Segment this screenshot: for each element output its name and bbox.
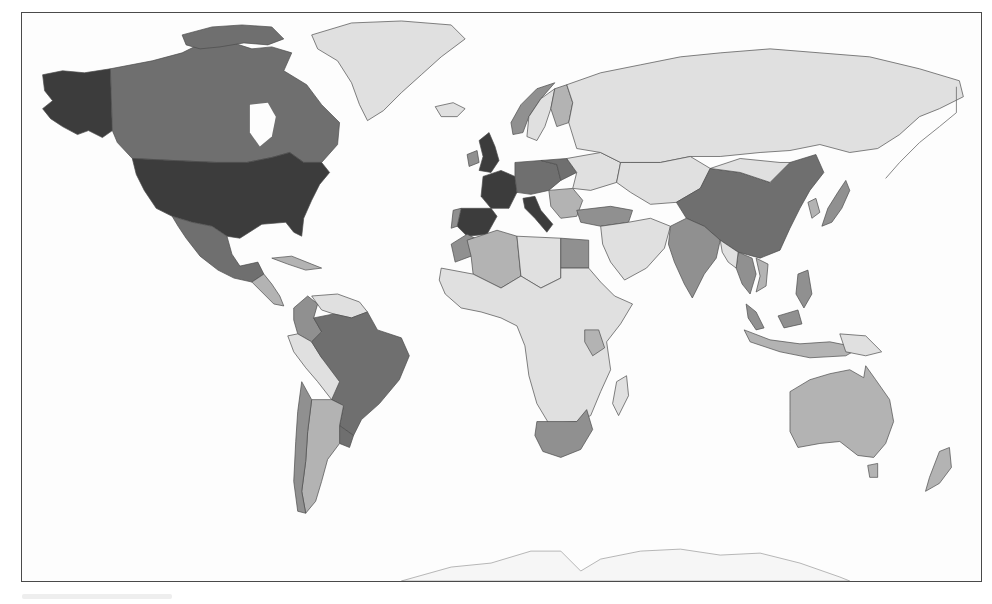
region-egypt[interactable] xyxy=(561,238,589,268)
region-vietnam[interactable] xyxy=(756,258,768,292)
world-map-frame xyxy=(21,12,982,582)
region-venezuela-guianas[interactable] xyxy=(312,294,368,318)
region-australia[interactable] xyxy=(790,366,894,458)
map-caption xyxy=(22,594,172,599)
region-uk[interactable] xyxy=(479,133,499,173)
region-caribbean[interactable] xyxy=(272,256,322,270)
region-ireland[interactable] xyxy=(467,151,479,167)
region-central-america[interactable] xyxy=(252,274,284,306)
region-france[interactable] xyxy=(481,170,517,208)
antarctica-outline xyxy=(401,549,849,581)
region-russia[interactable] xyxy=(567,49,964,163)
region-malaysia[interactable] xyxy=(746,304,802,330)
region-philippines[interactable] xyxy=(796,270,812,308)
region-thailand[interactable] xyxy=(736,252,756,294)
region-new-zealand[interactable] xyxy=(926,447,952,491)
region-japan[interactable] xyxy=(822,180,850,226)
region-canada[interactable] xyxy=(110,41,339,163)
region-italy[interactable] xyxy=(523,196,553,232)
region-germany[interactable] xyxy=(515,160,561,194)
region-madagascar[interactable] xyxy=(613,376,629,416)
region-iceland[interactable] xyxy=(435,103,465,117)
region-middle-east[interactable] xyxy=(601,218,671,280)
world-map xyxy=(22,13,981,581)
region-korea[interactable] xyxy=(808,198,820,218)
region-tasmania[interactable] xyxy=(868,463,878,477)
region-alaska[interactable] xyxy=(43,69,113,138)
region-usa[interactable] xyxy=(132,153,329,239)
